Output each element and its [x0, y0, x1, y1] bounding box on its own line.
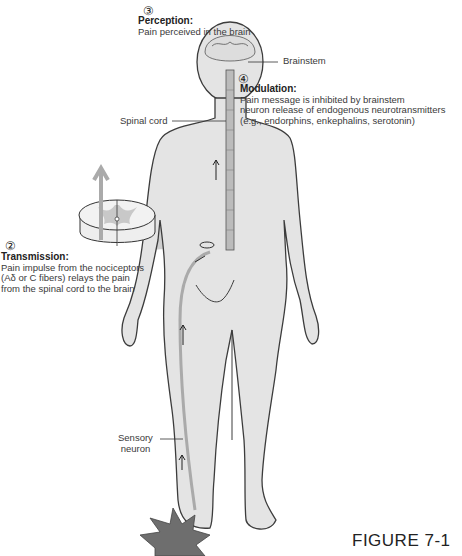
figure-caption: FIGURE 7-1: [352, 531, 451, 551]
modulation-title: Modulation:: [240, 84, 445, 95]
spinal-cord-cross-section: [79, 168, 155, 246]
transmission-text-line-2: (Aδ or C fibers) relays the pain: [1, 273, 144, 284]
transmission-annotation: Transmission: Pain impulse from the noci…: [1, 252, 144, 294]
modulation-text-line-2: neuron release of endogenous neurotransm…: [240, 105, 445, 116]
modulation-text-line-3: (e.g., endorphins, enkephalins, serotoni…: [240, 116, 445, 127]
perception-text: Pain perceived in the brain: [138, 26, 251, 37]
spinal-cord: [226, 70, 234, 250]
sensory-neuron-label: Sensory neuron: [118, 433, 153, 454]
brainstem-label: Brainstem: [283, 56, 326, 67]
perception-annotation: Perception: Pain perceived in the brain: [138, 16, 251, 37]
spinal-cord-label: Spinal cord: [120, 116, 168, 127]
sensory-neuron-line-1: Sensory: [118, 433, 153, 444]
modulation-annotation: Modulation: Pain message is inhibited by…: [240, 84, 445, 126]
transmission-text-line-3: from the spinal cord to the brain: [1, 284, 144, 295]
sensory-neuron-line-2: neuron: [118, 444, 153, 455]
transmission-title: Transmission:: [1, 252, 144, 263]
